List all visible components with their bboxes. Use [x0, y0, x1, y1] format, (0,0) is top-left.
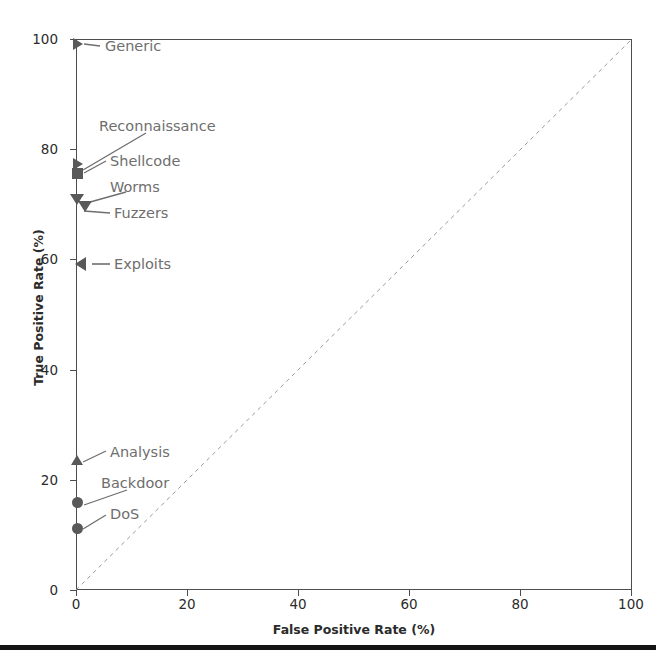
annotation-label-generic: Generic: [105, 38, 161, 54]
marker-shellcode: [72, 168, 83, 179]
marker-exploits: [75, 257, 86, 271]
page-bottom-rule: [0, 645, 656, 650]
marker-backdoor: [72, 497, 83, 508]
annotation-label-analysis: Analysis: [110, 444, 170, 460]
annotation-label-shellcode: Shellcode: [110, 153, 180, 169]
annotation-label-backdoor: Backdoor: [101, 475, 169, 491]
marker-dos: [72, 523, 83, 534]
annotation-leader-lines: [0, 0, 656, 668]
annotation-label-exploits: Exploits: [114, 256, 171, 272]
roc-scatter-figure: 0 20 40 60 80 100 0 20 40 60 80 100 Fals…: [0, 0, 656, 668]
annotation-label-fuzzers: Fuzzers: [114, 205, 168, 221]
marker-analysis: [71, 455, 83, 465]
marker-fuzzers: [78, 201, 92, 212]
annotation-label-dos: DoS: [110, 506, 139, 522]
annotation-label-worms: Worms: [110, 179, 160, 195]
annotation-label-reconnaissance: Reconnaissance: [99, 118, 216, 134]
marker-generic: [73, 38, 83, 50]
